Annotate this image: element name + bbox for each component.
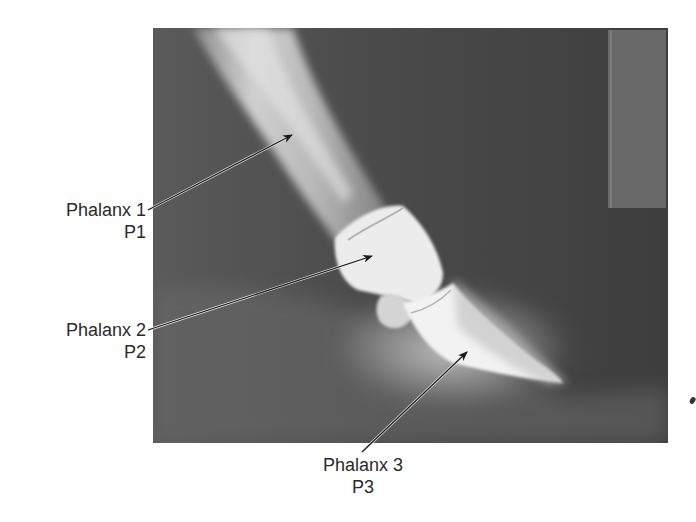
label-phalanx-1-name: Phalanx 1 (0, 199, 146, 221)
arrow-phalanx-1 (148, 135, 292, 210)
label-phalanx-1-abbr: P1 (0, 221, 146, 243)
label-phalanx-2-name: Phalanx 2 (0, 319, 146, 341)
annotation-layer (0, 0, 696, 522)
label-phalanx-1: Phalanx 1 P1 (0, 199, 146, 243)
label-phalanx-2-abbr: P2 (0, 341, 146, 363)
label-phalanx-2: Phalanx 2 P2 (0, 319, 146, 363)
arrow-phalanx-2 (148, 256, 372, 330)
label-phalanx-3-abbr: P3 (283, 476, 443, 498)
arrow-phalanx-3 (362, 352, 467, 452)
label-phalanx-3-name: Phalanx 3 (283, 454, 443, 476)
label-phalanx-3: Phalanx 3 P3 (283, 454, 443, 498)
